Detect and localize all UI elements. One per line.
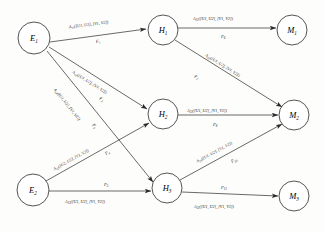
edge-e4-attr-label: A22([U2, U2], [V1, V2]) — [46, 145, 95, 176]
edge-e10-flow-label: F10 — [229, 156, 238, 165]
edge-e7-line — [175, 40, 282, 107]
edge-e7-attr-label: A22([U1, U2], [V1, V2]) — [198, 49, 245, 82]
edge-e10-attr-label: A24([U1, U2], [V1, V2]) — [189, 138, 238, 168]
node-H3[interactable]: H3 — [152, 173, 182, 203]
edge-e4-line — [46, 123, 149, 181]
edge-e7-flow-label: F7 — [192, 73, 200, 81]
edge-e1-attr-label: A11([U1, U2], [V1, V2]) — [62, 19, 114, 31]
node-M1[interactable]: M1 — [277, 15, 307, 45]
edge-e5-flow-label: F5 — [103, 182, 109, 188]
node-E1[interactable]: E1 — [18, 22, 50, 54]
edge-e11-flow-label: F11 — [220, 185, 227, 191]
node-M3[interactable]: M3 — [279, 181, 309, 211]
edge-e8-flow-label: F8 — [212, 122, 218, 128]
edge-e10-line — [180, 124, 282, 180]
edge-e4-flow-label: F4 — [103, 149, 111, 157]
edge-e2-flow-label: F2 — [97, 95, 105, 103]
edge-e8-attr-label: A23([U1, U2], [V1, V2]) — [182, 108, 230, 114]
diagram-canvas: A11([U1, U2], [V1, V2]) F1 A12([U1, U2],… — [0, 0, 325, 232]
edge-e11-line — [182, 192, 278, 196]
edge-e6-flow-label: F6 — [220, 34, 226, 40]
edge-e1-flow-label: F1 — [95, 38, 102, 45]
edge-e6-attr-label: A21([U1, U2], [V1, V2]) — [188, 16, 236, 22]
edge-e5-attr-label: A13([U1, U2], [V1, V2]) — [60, 199, 108, 205]
edge-e3-attr-label: A13([U1, U2], [V1, V2]) — [47, 81, 85, 125]
edge-e3-flow-label: F3 — [90, 122, 98, 130]
node-H1[interactable]: H1 — [148, 15, 178, 45]
node-H2[interactable]: H2 — [148, 99, 178, 129]
node-M2[interactable]: M2 — [279, 100, 309, 130]
node-E2[interactable]: E2 — [17, 174, 49, 206]
edge-e11-attr-label: A22([U1, U2], [V1, V2]) — [189, 204, 237, 210]
